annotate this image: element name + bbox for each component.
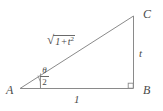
angle-denominator: 2 [40, 78, 49, 87]
triangle-side-hypotenuse [20, 16, 134, 89]
side-label-vertical-leg: t [139, 48, 142, 59]
vertex-label-b: B [143, 84, 150, 96]
geometry-figure: A B C t 1 √ 1+t2 θ 2 [0, 0, 163, 111]
angle-numerator: θ [40, 66, 49, 75]
angle-label-theta-over-two: θ 2 [40, 66, 49, 87]
radicand-exponent: 2 [71, 35, 75, 43]
vertex-label-a: A [6, 84, 13, 96]
right-angle-marker [128, 83, 133, 88]
radicand-operator: + [60, 36, 68, 47]
vertex-label-c: C [143, 8, 151, 20]
side-label-base: 1 [74, 94, 80, 105]
side-label-hypotenuse: √ 1+t2 [47, 35, 75, 48]
radicand-group: 1+t2 [53, 35, 75, 48]
